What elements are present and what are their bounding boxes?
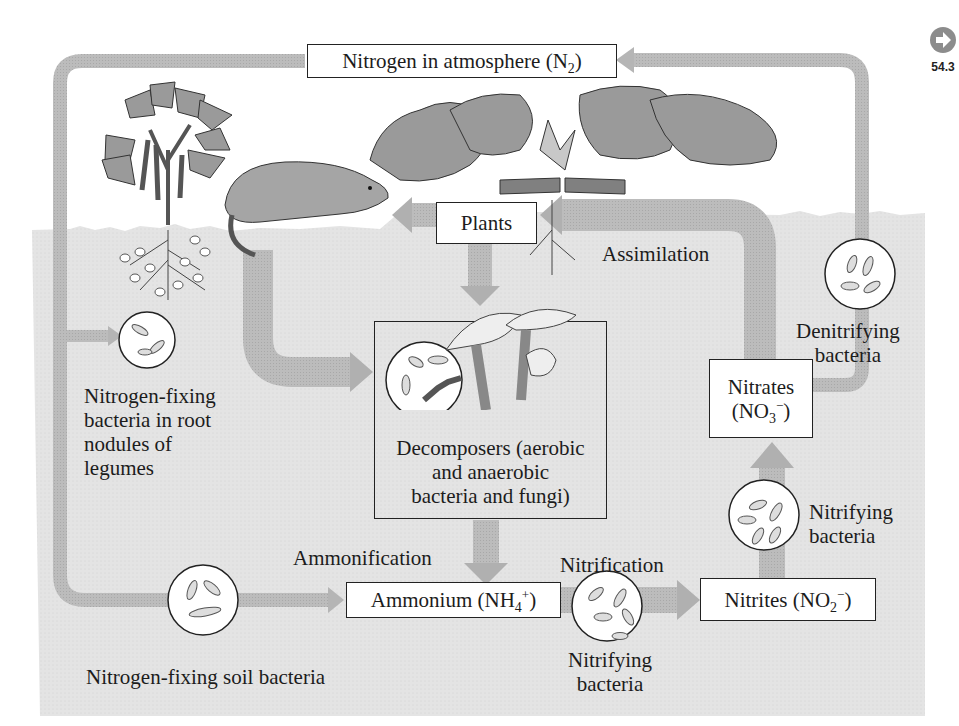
soil-bacteria-label: Nitrogen-fixing soil bacteria bbox=[86, 665, 325, 689]
denitrifying-bacteria-circle bbox=[825, 239, 895, 309]
plants-node: Plants bbox=[436, 202, 537, 244]
atmosphere-node: Nitrogen in atmosphere (N2) bbox=[307, 44, 617, 78]
reference-badge[interactable]: 54.3 bbox=[926, 26, 959, 74]
ammonium-node: Ammonium (NH4+) bbox=[346, 582, 561, 618]
nitrates-node: Nitrates (NO3−) bbox=[709, 359, 813, 438]
nitrites-node: Nitrites (NO2−) bbox=[700, 578, 876, 621]
decomposers-fungi-illustration bbox=[376, 300, 606, 410]
root-nodule-bacteria-label: Nitrogen-fixing bacteria in root nodules… bbox=[84, 384, 216, 480]
assimilation-label: Assimilation bbox=[602, 242, 709, 266]
nitrifying-bacteria-bottom-label: Nitrifying bacteria bbox=[568, 648, 652, 696]
soil-bacteria-circle bbox=[168, 565, 238, 635]
arrow-right-circle-icon bbox=[929, 26, 957, 54]
reference-number: 54.3 bbox=[926, 60, 959, 74]
nitrification-label: Nitrification bbox=[560, 553, 664, 577]
nitrifying-bacteria-right-circle bbox=[729, 480, 799, 550]
root-nodule-bacteria-circle bbox=[119, 312, 175, 368]
nitrifying-bacteria-bottom-circle bbox=[572, 571, 642, 641]
ammonification-label: Ammonification bbox=[293, 546, 432, 570]
denitrifying-bacteria-label: Denitrifying bacteria bbox=[796, 319, 900, 367]
nitrifying-bacteria-right-label: Nitrifying bacteria bbox=[809, 500, 893, 548]
